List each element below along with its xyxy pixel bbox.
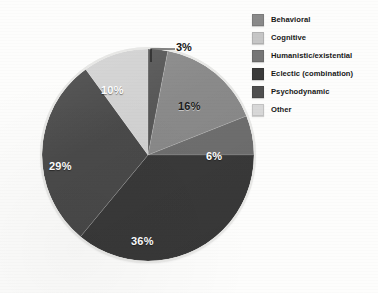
legend-item-eclectic-combination[interactable]: Eclectic (combination) — [252, 65, 376, 83]
legend-item-behavioral[interactable]: Behavioral — [252, 11, 376, 29]
legend-swatch-icon — [252, 50, 264, 62]
legend-swatch-icon — [252, 68, 264, 80]
legend-item-other[interactable]: Other — [252, 101, 376, 119]
legend-label: Behavioral — [271, 16, 310, 24]
legend-item-humanistic-existential[interactable]: Humanistic/existential — [252, 47, 376, 65]
legend-label: Eclectic (combination) — [271, 70, 353, 78]
legend-label: Other — [271, 106, 292, 114]
legend-swatch-icon — [252, 104, 264, 116]
chart-legend: Behavioral Cognitive Humanistic/existent… — [252, 11, 376, 119]
legend-item-psychodynamic[interactable]: Psychodynamic — [252, 83, 376, 101]
legend-label: Cognitive — [271, 34, 306, 42]
slice-label-psychodynamic: 29% — [49, 160, 72, 172]
slice-label-cognitive: 6% — [206, 150, 222, 162]
legend-item-cognitive[interactable]: Cognitive — [252, 29, 376, 47]
slice-label-other: 10% — [101, 84, 124, 96]
pie-chart-figure: 16% 6% 36% 29% 10% 3% Behavioral Cogniti… — [0, 0, 378, 293]
slice-label-eclectic: 36% — [131, 235, 154, 247]
legend-label: Humanistic/existential — [271, 52, 352, 60]
legend-swatch-icon — [252, 32, 264, 44]
legend-swatch-icon — [252, 14, 264, 26]
slice-label-behavioral: 16% — [178, 100, 201, 112]
legend-label: Psychodynamic — [271, 88, 329, 96]
legend-swatch-icon — [252, 86, 264, 98]
slice-label-humanistic: 3% — [176, 41, 192, 53]
